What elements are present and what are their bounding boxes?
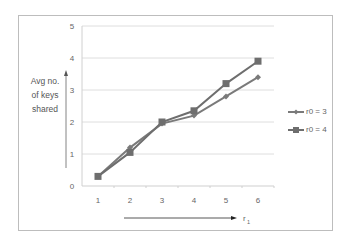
x-arrow-head-icon	[231, 216, 237, 220]
y-tick-label: 2	[70, 118, 75, 127]
series-line-1	[98, 77, 258, 176]
y-tick-label: 4	[70, 54, 75, 63]
line-chart: 012345123456r1	[0, 0, 353, 243]
x-tick-label: 4	[192, 196, 197, 205]
x-tick-label: 5	[224, 196, 229, 205]
y-tick-label: 3	[70, 86, 75, 95]
x-tick-label: 6	[256, 196, 261, 205]
x-axis-label-subscript: 1	[247, 219, 250, 225]
square-marker-icon	[159, 119, 166, 126]
y-arrow-head-icon	[64, 70, 68, 76]
square-marker-icon	[255, 58, 262, 65]
legend-item-2: r0 = 4	[306, 125, 327, 134]
legend-item-1: r0 = 3	[306, 107, 327, 116]
x-axis-label: r	[243, 214, 246, 223]
y-tick-label: 1	[70, 150, 75, 159]
square-marker-icon	[191, 107, 198, 114]
x-tick-label: 1	[96, 196, 101, 205]
legend-square-icon	[293, 127, 299, 133]
x-tick-label: 3	[160, 196, 165, 205]
square-marker-icon	[95, 173, 102, 180]
y-tick-label: 0	[70, 182, 75, 191]
legend-diamond-icon	[294, 110, 299, 115]
x-tick-label: 2	[128, 196, 133, 205]
y-tick-label: 5	[70, 22, 75, 31]
square-marker-icon	[223, 80, 230, 87]
square-marker-icon	[127, 149, 134, 156]
